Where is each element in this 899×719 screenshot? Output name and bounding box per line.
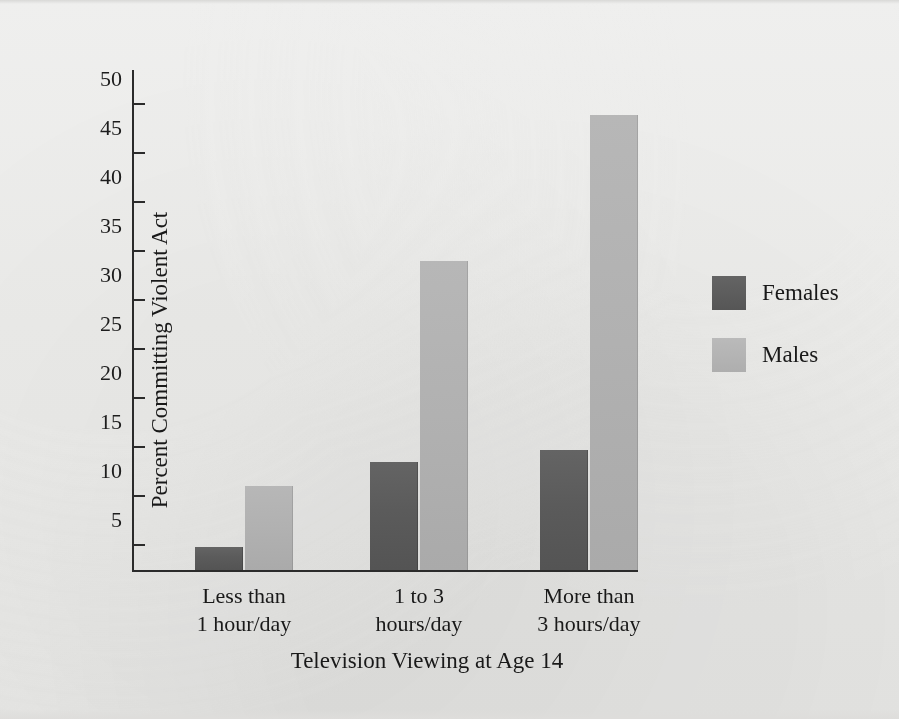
plot-area: 5101520253035404550 [132, 70, 632, 570]
y-tick-minor [134, 495, 145, 497]
y-tick-label: 5 [111, 509, 122, 531]
y-tick-minor [134, 299, 145, 301]
y-tick-label: 35 [100, 215, 122, 237]
y-tick-minor [134, 446, 145, 448]
bar-males-group-0 [245, 486, 293, 570]
y-tick-minor [134, 201, 145, 203]
x-group-label-line: More than [484, 582, 694, 610]
y-tick-minor [134, 397, 145, 399]
legend: Females Males [712, 276, 882, 400]
legend-item-females: Females [712, 276, 882, 310]
page-top-edge [0, 0, 899, 4]
y-tick-label: 25 [100, 313, 122, 335]
bar-females-group-0 [195, 547, 243, 570]
y-tick-minor [134, 544, 145, 546]
x-axis-line [132, 570, 638, 572]
y-tick-label: 20 [100, 362, 122, 384]
page-bottom-edge [0, 709, 899, 719]
y-tick-label: 10 [100, 460, 122, 482]
y-tick-label: 15 [100, 411, 122, 433]
x-group-label-2: More than3 hours/day [484, 582, 694, 638]
x-axis-title: Television Viewing at Age 14 [132, 648, 722, 674]
bar-males-group-2 [590, 115, 638, 570]
y-tick-label: 45 [100, 117, 122, 139]
legend-swatch-females-icon [712, 276, 746, 310]
y-tick-label: 50 [100, 68, 122, 90]
bar-males-group-1 [420, 261, 468, 570]
y-tick-label: 30 [100, 264, 122, 286]
bar-females-group-1 [370, 462, 418, 570]
y-tick-label: 40 [100, 166, 122, 188]
bar-females-group-2 [540, 450, 588, 570]
legend-label-males: Males [762, 342, 818, 368]
legend-swatch-males-icon [712, 338, 746, 372]
y-tick-minor [134, 250, 145, 252]
y-tick-minor [134, 103, 145, 105]
y-tick-minor [134, 348, 145, 350]
legend-label-females: Females [762, 280, 839, 306]
figure-bar-chart: Percent Committing Violent Act 510152025… [0, 0, 899, 719]
x-group-label-line: 3 hours/day [484, 610, 694, 638]
y-tick-minor [134, 152, 145, 154]
legend-item-males: Males [712, 338, 882, 372]
